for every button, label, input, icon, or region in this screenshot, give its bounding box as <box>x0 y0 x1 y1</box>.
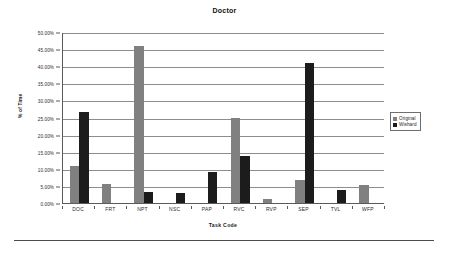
bar-rvc-wishard <box>240 156 250 203</box>
y-axis-tick-label: 35.00% <box>38 82 54 87</box>
x-axis-tick-label: FRT <box>105 206 115 212</box>
y-axis-tick-mark <box>56 135 60 136</box>
y-axis-tick-mark <box>56 101 60 102</box>
y-axis-tick-label: 0.00% <box>40 202 54 207</box>
legend-entry-wishard: Wishard <box>393 122 417 127</box>
y-axis-tick-mark <box>56 84 60 85</box>
y-axis-tick-label: 25.00% <box>38 116 54 121</box>
legend-label: Wishard <box>399 122 417 127</box>
x-axis-tick-mark <box>320 206 321 209</box>
y-axis-tick-label: 30.00% <box>38 99 54 104</box>
chart-legend: OriginalWishard <box>390 112 421 131</box>
bar-sep-wishard <box>305 63 315 203</box>
bar-rvc-original <box>231 118 241 203</box>
x-axis-tick-label: PAP <box>202 206 212 212</box>
x-axis-tick-labels: DOCFRTNPTNSCPAPRVCRVPSEPTVLWFP <box>62 206 384 218</box>
gridline <box>63 50 384 51</box>
x-axis-tick-mark <box>191 206 192 209</box>
bottom-divider <box>14 240 434 241</box>
gridline <box>63 170 384 171</box>
bar-nsc-wishard <box>176 193 186 203</box>
bar-npt-original <box>134 46 144 203</box>
bar-wfp-original <box>359 185 369 203</box>
gridline <box>63 101 384 102</box>
bar-tvl-wishard <box>337 190 347 203</box>
y-axis-tick-mark <box>56 118 60 119</box>
legend-swatch-icon <box>393 123 397 127</box>
gridline <box>63 119 384 120</box>
x-axis-tick-mark <box>223 206 224 209</box>
bar-doc-original <box>70 166 80 203</box>
bar-pap-wishard <box>208 172 218 203</box>
y-axis-tick-label: 10.00% <box>38 167 54 172</box>
y-axis-tick-label: 45.00% <box>38 48 54 53</box>
plot-area <box>62 33 384 204</box>
bar-frt-original <box>102 184 112 203</box>
y-axis-tick-mark <box>56 33 60 34</box>
chart-figure: Doctor % of Time 0.00%5.00%10.00%15.00%2… <box>0 0 449 257</box>
x-axis-tick-label: RVP <box>266 206 277 212</box>
gridline <box>63 136 384 137</box>
gridline <box>63 84 384 85</box>
x-axis-title: Task Code <box>62 222 384 228</box>
legend-swatch-icon <box>393 117 397 121</box>
x-axis-tick-label: WFP <box>362 206 374 212</box>
y-axis-tick-label: 5.00% <box>40 184 54 189</box>
gridline <box>63 67 384 68</box>
bar-sep-original <box>295 180 305 203</box>
x-axis-tick-mark <box>94 206 95 209</box>
y-axis-tick-label: 20.00% <box>38 133 54 138</box>
bar-rvp-original <box>263 199 273 203</box>
gridlines <box>63 33 384 203</box>
x-axis-tick-mark <box>159 206 160 209</box>
x-axis-tick-label: SEP <box>298 206 309 212</box>
y-axis-tick-mark <box>56 204 60 205</box>
x-axis-tick-mark <box>255 206 256 209</box>
y-axis-tick-label: 50.00% <box>38 31 54 36</box>
y-axis-tick-mark <box>56 152 60 153</box>
bar-npt-wishard <box>144 192 154 203</box>
x-axis-tick-mark <box>287 206 288 209</box>
x-axis-tick-mark <box>352 206 353 209</box>
x-axis-tick-label: RVC <box>234 206 245 212</box>
x-axis-tick-mark <box>62 206 63 209</box>
x-axis-tick-label: DOC <box>72 206 84 212</box>
legend-entry-original: Original <box>393 116 417 121</box>
y-axis-tick-mark <box>56 67 60 68</box>
x-axis-tick-label: TVL <box>331 206 341 212</box>
y-axis-tick-mark <box>56 50 60 51</box>
x-axis-tick-label: NPT <box>137 206 148 212</box>
gridline <box>63 153 384 154</box>
x-axis-tick-mark <box>126 206 127 209</box>
y-axis-tick-labels: 0.00%5.00%10.00%15.00%20.00%25.00%30.00%… <box>0 33 60 204</box>
chart-title: Doctor <box>0 7 449 14</box>
y-axis-tick-label: 40.00% <box>38 65 54 70</box>
bar-doc-wishard <box>79 112 89 203</box>
x-axis-tick-mark <box>384 206 385 209</box>
y-axis-tick-mark <box>56 186 60 187</box>
x-axis-tick-label: NSC <box>169 206 180 212</box>
gridline <box>63 33 384 34</box>
y-axis-tick-label: 15.00% <box>38 150 54 155</box>
legend-label: Original <box>399 116 416 121</box>
y-axis-tick-mark <box>56 169 60 170</box>
